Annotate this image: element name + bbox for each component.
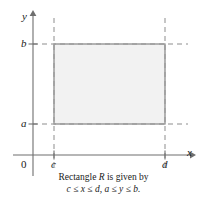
origin-label: 0 bbox=[21, 159, 27, 170]
y-tick-label-b: b bbox=[21, 38, 27, 49]
rectangle-region-R bbox=[54, 44, 165, 124]
plot-canvas bbox=[0, 0, 207, 200]
x-axis-label: x bbox=[187, 147, 192, 158]
y-tick-label-a: a bbox=[21, 118, 27, 129]
caption-line-1: Rectangle R is given by bbox=[0, 172, 207, 184]
caption-line-1-suffix: is given by bbox=[105, 172, 149, 182]
figure-caption: Rectangle R is given by c ≤ x ≤ d, a ≤ y… bbox=[0, 172, 207, 195]
y-axis-label: y bbox=[22, 11, 27, 22]
caption-line-1-prefix: Rectangle bbox=[58, 172, 98, 182]
rectangle-region-figure: y x b a c d 0 Rectangle R is given by c … bbox=[0, 0, 207, 200]
x-tick-label-d: d bbox=[162, 159, 168, 170]
y-axis-arrowhead-icon bbox=[30, 10, 37, 16]
caption-line-2: c ≤ x ≤ d, a ≤ y ≤ b. bbox=[0, 184, 207, 196]
x-tick-label-c: c bbox=[51, 159, 56, 170]
